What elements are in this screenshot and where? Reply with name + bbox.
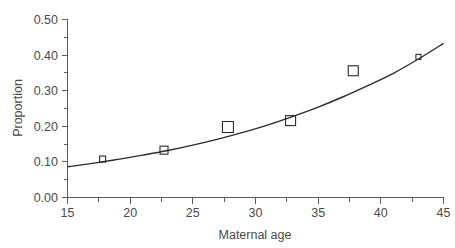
y-tick-label: 0.40 xyxy=(34,49,58,63)
x-tick-label: 15 xyxy=(61,206,75,220)
data-point-markers xyxy=(100,54,421,162)
y-tick-label: 0.10 xyxy=(34,155,58,169)
x-tick-label: 30 xyxy=(249,206,263,220)
x-tick-label: 20 xyxy=(123,206,137,220)
x-tick-label: 35 xyxy=(311,206,325,220)
x-tick-label: 45 xyxy=(437,206,451,220)
maternal-age-proportion-chart: 0.50 0.40 0.30 0.20 0.10 0.00 15 20 25 3… xyxy=(0,0,455,248)
y-tick-label: 0.20 xyxy=(34,120,58,134)
x-axis-title: Maternal age xyxy=(219,228,292,242)
x-axis-tick-labels: 15 20 25 30 35 40 45 xyxy=(61,206,451,220)
fitted-curve xyxy=(68,43,444,167)
data-point-marker xyxy=(222,122,233,133)
x-tick-label: 40 xyxy=(374,206,388,220)
x-tick-label: 25 xyxy=(186,206,200,220)
y-axis-tick-labels: 0.50 0.40 0.30 0.20 0.10 0.00 xyxy=(34,13,58,205)
data-point-marker xyxy=(348,66,358,76)
x-axis-major-ticks xyxy=(68,198,444,204)
y-axis-title: Proportion xyxy=(11,79,25,137)
y-tick-label: 0.00 xyxy=(34,191,58,205)
chart-figure: 0.50 0.40 0.30 0.20 0.10 0.00 15 20 25 3… xyxy=(0,0,455,248)
y-tick-label: 0.30 xyxy=(34,84,58,98)
y-tick-label: 0.50 xyxy=(34,13,58,27)
y-axis-minor-ticks xyxy=(64,37,68,179)
